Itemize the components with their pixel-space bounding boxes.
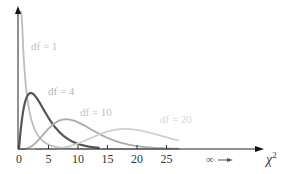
x-axis-superscript: 2 (272, 150, 277, 160)
x-tick-label: 0 (16, 152, 22, 166)
infinity-arrow-icon (227, 158, 233, 162)
label-df10: df = 10 (80, 106, 112, 118)
curve-df-1 (19, 12, 178, 149)
x-tick-label: 25 (161, 152, 173, 166)
x-axis-label: χ2 (264, 150, 277, 167)
x-tick-label: 15 (102, 152, 114, 166)
x-tick-label: 5 (46, 152, 52, 166)
x-axis-arrow-icon (255, 146, 264, 152)
infinity-label: ∞ (206, 153, 214, 165)
chi-square-chart: 0510152025 df = 1 df = 4 df = 10 df = 20… (0, 0, 292, 174)
label-df20: df = 20 (160, 113, 192, 125)
x-tick-label: 10 (72, 152, 84, 166)
x-tick-label: 20 (131, 152, 143, 166)
label-df4: df = 4 (48, 85, 75, 97)
curves-group (19, 12, 178, 149)
y-axis-arrow-icon (15, 6, 21, 14)
label-df1: df = 1 (31, 40, 57, 52)
